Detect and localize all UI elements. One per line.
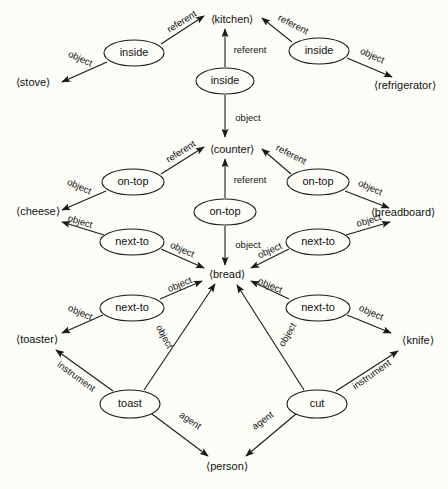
- arc-label-object: object: [169, 239, 197, 260]
- arc-label-referent: referent: [274, 142, 308, 167]
- concept-node-ontop-left[interactable]: on-top: [102, 169, 164, 195]
- arc-label-object: object: [276, 320, 298, 348]
- arc-label-object: object: [357, 177, 385, 198]
- arc-label-object: object: [235, 239, 261, 250]
- concept-label-nextto-lowleft: next-to: [115, 301, 149, 313]
- concept-node-ontop-right[interactable]: on-top: [287, 169, 349, 195]
- entity-node-refrigerator[interactable]: ⟨refrigerator⟩: [374, 79, 436, 91]
- arc-labels-layer: referentobjectreferentobjectreferentobje…: [55, 8, 393, 432]
- entity-node-counter[interactable]: ⟨counter⟩: [210, 143, 255, 155]
- concept-label-nextto-upleft: next-to: [115, 235, 149, 247]
- concept-node-nextto-lowleft[interactable]: next-to: [100, 295, 164, 321]
- concept-node-inside-left[interactable]: inside: [104, 40, 164, 66]
- edge-cut-object-bread: [237, 285, 304, 390]
- edge-toast-object-bread: [144, 284, 215, 390]
- concept-label-ontop-center: on-top: [209, 205, 240, 217]
- semantic-network-diagram: insideinsideinsideon-topon-topon-topnext…: [0, 0, 448, 489]
- concept-node-inside-center[interactable]: inside: [196, 68, 254, 94]
- arc-label-object: object: [257, 275, 285, 295]
- concept-label-ontop-left: on-top: [117, 175, 148, 187]
- arc-label-agent: agent: [250, 409, 276, 432]
- arc-label-agent: agent: [178, 409, 204, 432]
- concept-node-nextto-lowright[interactable]: next-to: [286, 295, 350, 321]
- concept-node-ontop-center[interactable]: on-top: [194, 199, 256, 225]
- entity-node-knife[interactable]: ⟨knife⟩: [402, 334, 433, 346]
- arc-label-object: object: [67, 302, 95, 322]
- concept-label-inside-center: inside: [211, 74, 240, 86]
- entity-node-stove[interactable]: ⟨stove⟩: [16, 76, 50, 88]
- concept-node-cut[interactable]: cut: [287, 390, 347, 418]
- concept-label-toast: toast: [118, 397, 142, 409]
- entity-node-bread[interactable]: ⟨bread⟩: [209, 268, 245, 280]
- concept-label-ontop-right: on-top: [302, 175, 333, 187]
- arc-label-object: object: [67, 48, 95, 69]
- concept-label-inside-left: inside: [120, 46, 149, 58]
- arc-label-referent: referent: [276, 12, 310, 37]
- concept-label-nextto-upright: next-to: [301, 235, 335, 247]
- arc-label-referent: referent: [234, 44, 267, 55]
- concept-node-inside-right[interactable]: inside: [289, 38, 349, 64]
- entity-node-toaster[interactable]: ⟨toaster⟩: [16, 333, 58, 345]
- entity-node-cheese[interactable]: ⟨cheese⟩: [16, 205, 59, 217]
- arc-label-object: object: [355, 211, 383, 229]
- arc-label-object: object: [359, 45, 387, 66]
- concept-label-inside-right: inside: [305, 44, 334, 56]
- arc-label-referent: referent: [234, 174, 267, 185]
- concept-node-toast[interactable]: toast: [100, 390, 160, 418]
- concept-node-nextto-upleft[interactable]: next-to: [100, 229, 164, 255]
- arc-label-instrument: instrument: [350, 357, 393, 392]
- arc-label-referent: referent: [164, 138, 198, 165]
- concept-label-nextto-lowright: next-to: [301, 301, 335, 313]
- edge-nextto-lowright-object-knife: [347, 315, 391, 333]
- arc-label-object: object: [358, 302, 386, 322]
- entity-node-kitchen[interactable]: ⟨kitchen⟩: [211, 13, 254, 25]
- arc-label-object: object: [154, 323, 176, 351]
- arc-label-object: object: [66, 176, 94, 197]
- edge-inside-right-object-refrigerator: [347, 58, 392, 77]
- concept-label-cut: cut: [310, 397, 325, 409]
- arc-label-object: object: [235, 112, 261, 123]
- concept-node-nextto-upright[interactable]: next-to: [286, 229, 350, 255]
- entity-node-person[interactable]: ⟨person⟩: [206, 460, 248, 472]
- diagram-canvas: insideinsideinsideon-topon-topon-topnext…: [0, 0, 448, 489]
